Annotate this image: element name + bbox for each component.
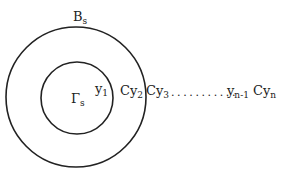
- label-cy-n-sub: n: [270, 90, 276, 100]
- label-cy-n: Cyn: [253, 84, 276, 100]
- label-gamma-s: Γs: [71, 92, 85, 108]
- label-b-s-sub: s: [83, 16, 88, 26]
- label-y-n-minus-1-sub: n-1: [234, 90, 249, 100]
- label-cy2-main: Cy: [120, 83, 137, 98]
- label-cy-n-main: Cy: [253, 83, 270, 98]
- label-cy3-main: Cy: [146, 83, 163, 98]
- label-b-s: Bs: [73, 10, 87, 26]
- label-y1-sub: 1: [102, 88, 108, 98]
- label-cy2: Cy2: [120, 84, 143, 100]
- label-y-n-minus-1: yn-1: [227, 84, 249, 100]
- label-gamma-s-main: Γ: [71, 91, 80, 106]
- label-gamma-s-sub: s: [80, 98, 85, 108]
- label-y1: y1: [95, 82, 108, 98]
- label-cy2-sub: 2: [137, 90, 143, 100]
- label-b-s-main: B: [73, 9, 83, 24]
- label-cy3: Cy3: [146, 84, 169, 100]
- label-cy3-sub: 3: [163, 90, 169, 100]
